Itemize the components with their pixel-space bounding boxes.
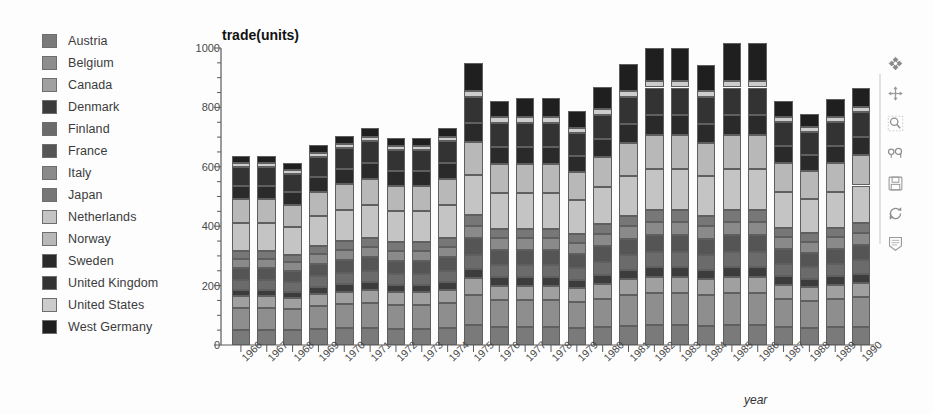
bar-segment[interactable]: [412, 274, 431, 285]
bar-segment[interactable]: [309, 216, 328, 246]
bar-segment[interactable]: [748, 222, 767, 235]
bar-segment[interactable]: [232, 199, 251, 222]
bar-segment[interactable]: [257, 290, 276, 297]
bar-column[interactable]: [361, 48, 380, 345]
bar-segment[interactable]: [723, 235, 742, 252]
bar-segment[interactable]: [490, 238, 509, 249]
bar-segment[interactable]: [748, 210, 767, 221]
bar-segment[interactable]: [852, 233, 871, 245]
bar-segment[interactable]: [361, 238, 380, 247]
bar-segment[interactable]: [748, 88, 767, 116]
bar-segment[interactable]: [671, 222, 690, 235]
bar-segment[interactable]: [257, 167, 276, 186]
bar-segment[interactable]: [800, 301, 819, 328]
bar-segment[interactable]: [645, 169, 664, 211]
bar-segment[interactable]: [697, 124, 716, 143]
bar-segment[interactable]: [412, 138, 431, 146]
bar-segment[interactable]: [335, 260, 354, 273]
bar-segment[interactable]: [774, 299, 793, 327]
bar-segment[interactable]: [671, 267, 690, 277]
bar-segment[interactable]: [412, 285, 431, 292]
bar-segment[interactable]: [464, 295, 483, 326]
bar-segment[interactable]: [697, 279, 716, 295]
bar-segment[interactable]: [490, 147, 509, 164]
bar-segment[interactable]: [387, 251, 406, 261]
bar-segment[interactable]: [748, 293, 767, 325]
bar-segment[interactable]: [257, 163, 276, 167]
bar-segment[interactable]: [748, 235, 767, 252]
bar-segment[interactable]: [412, 211, 431, 242]
bar-segment[interactable]: [542, 300, 561, 327]
bar-column[interactable]: [464, 48, 483, 345]
bar-segment[interactable]: [593, 139, 612, 157]
bar-segment[interactable]: [361, 271, 380, 283]
bar-segment[interactable]: [723, 267, 742, 277]
bar-segment[interactable]: [412, 261, 431, 274]
bar-segment[interactable]: [335, 148, 354, 169]
bar-segment[interactable]: [826, 99, 845, 116]
bar-segment[interactable]: [697, 91, 716, 97]
bar-segment[interactable]: [748, 267, 767, 277]
bar-segment[interactable]: [438, 163, 457, 178]
bar-segment[interactable]: [283, 255, 302, 262]
bar-segment[interactable]: [748, 135, 767, 169]
bar-segment[interactable]: [283, 309, 302, 330]
bar-segment[interactable]: [516, 286, 535, 300]
bar-segment[interactable]: [490, 117, 509, 122]
bar-segment[interactable]: [490, 193, 509, 229]
bar-segment[interactable]: [335, 292, 354, 304]
bar-segment[interactable]: [593, 284, 612, 299]
bar-segment[interactable]: [568, 254, 587, 268]
bar-segment[interactable]: [774, 117, 793, 122]
bar-segment[interactable]: [438, 247, 457, 257]
zoom-select-icon[interactable]: [883, 112, 907, 134]
bar-segment[interactable]: [774, 249, 793, 264]
bar-segment[interactable]: [800, 171, 819, 199]
bar-segment[interactable]: [438, 141, 457, 163]
bar-segment[interactable]: [568, 234, 587, 243]
bar-segment[interactable]: [232, 259, 251, 268]
bar-segment[interactable]: [800, 242, 819, 253]
bar-segment[interactable]: [335, 144, 354, 149]
bar-segment[interactable]: [697, 65, 716, 91]
bar-segment[interactable]: [671, 210, 690, 221]
save-icon[interactable]: [883, 172, 907, 194]
bar-segment[interactable]: [852, 297, 871, 326]
bar-column[interactable]: [645, 48, 664, 345]
bar-segment[interactable]: [516, 265, 535, 278]
bar-segment[interactable]: [387, 186, 406, 211]
bar-segment[interactable]: [438, 128, 457, 136]
bar-segment[interactable]: [568, 133, 587, 156]
bar-segment[interactable]: [852, 88, 871, 107]
bar-segment[interactable]: [800, 267, 819, 279]
bar-segment[interactable]: [748, 43, 767, 82]
bar-segment[interactable]: [335, 136, 354, 144]
bar-segment[interactable]: [671, 88, 690, 116]
bar-segment[interactable]: [593, 299, 612, 328]
bar-segment[interactable]: [593, 262, 612, 275]
bar-segment[interactable]: [516, 229, 535, 239]
bar-segment[interactable]: [542, 98, 561, 117]
bar-segment[interactable]: [697, 326, 716, 345]
bar-segment[interactable]: [464, 142, 483, 175]
bar-segment[interactable]: [593, 157, 612, 187]
bar-segment[interactable]: [257, 156, 276, 163]
bar-segment[interactable]: [387, 211, 406, 242]
bar-segment[interactable]: [697, 226, 716, 238]
bar-segment[interactable]: [619, 143, 638, 176]
bar-segment[interactable]: [748, 81, 767, 87]
bar-segment[interactable]: [774, 101, 793, 117]
bar-segment[interactable]: [438, 290, 457, 303]
bar-segment[interactable]: [361, 128, 380, 136]
bar-segment[interactable]: [619, 91, 638, 97]
bar-segment[interactable]: [464, 238, 483, 255]
bar-segment[interactable]: [697, 176, 716, 216]
bar-segment[interactable]: [748, 277, 767, 294]
bar-segment[interactable]: [490, 277, 509, 285]
bar-segment[interactable]: [697, 255, 716, 269]
bar-segment[interactable]: [335, 210, 354, 241]
bar-segment[interactable]: [619, 295, 638, 326]
bar-segment[interactable]: [516, 117, 535, 122]
bar-segment[interactable]: [645, 293, 664, 325]
bar-segment[interactable]: [335, 184, 354, 210]
